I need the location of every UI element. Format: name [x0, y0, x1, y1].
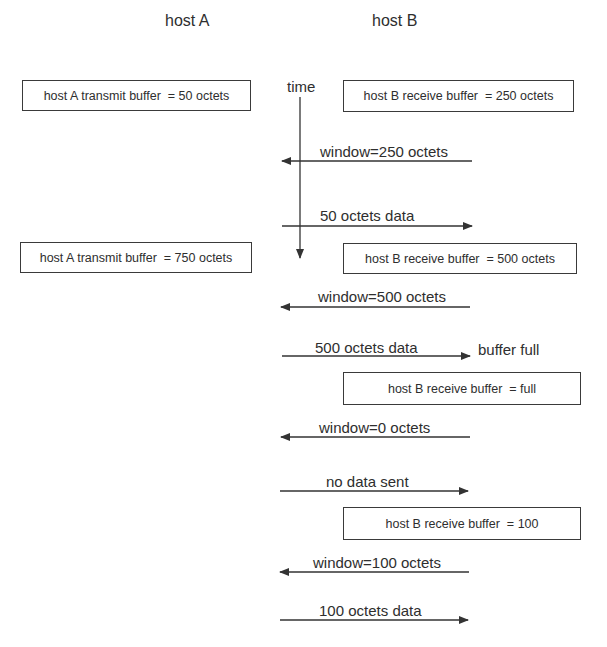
buffer-box-text: host A transmit buffer = 50 octets: [44, 89, 230, 103]
buffer-box-text: host B receive buffer = full: [388, 382, 536, 396]
host-a-title: host A: [165, 12, 209, 30]
message-label: 500 octets data: [315, 339, 418, 356]
host-a-buffer-box: host A transmit buffer = 750 octets: [20, 242, 252, 273]
host-b-title: host B: [372, 12, 417, 30]
message-label: window=250 octets: [320, 143, 448, 160]
host-b-buffer-box: host B receive buffer = 100: [343, 507, 581, 540]
message-label: window=500 octets: [318, 288, 446, 305]
buffer-full-note: buffer full: [478, 341, 539, 358]
buffer-box-text: host A transmit buffer = 750 octets: [40, 251, 233, 265]
time-axis-label: time: [287, 78, 315, 95]
buffer-box-text: host B receive buffer = 250 octets: [364, 89, 554, 103]
host-b-buffer-box: host B receive buffer = 250 octets: [343, 80, 574, 112]
message-label: 100 octets data: [319, 602, 422, 619]
message-label: window=0 octets: [319, 419, 430, 436]
host-b-buffer-box: host B receive buffer = full: [343, 372, 581, 405]
buffer-box-text: host B receive buffer = 500 octets: [365, 252, 555, 266]
message-label: window=100 octets: [313, 554, 441, 571]
host-b-buffer-box: host B receive buffer = 500 octets: [343, 243, 577, 274]
message-label: 50 octets data: [320, 207, 414, 224]
message-label: no data sent: [326, 473, 409, 490]
host-a-buffer-box: host A transmit buffer = 50 octets: [22, 80, 251, 111]
buffer-box-text: host B receive buffer = 100: [386, 517, 539, 531]
